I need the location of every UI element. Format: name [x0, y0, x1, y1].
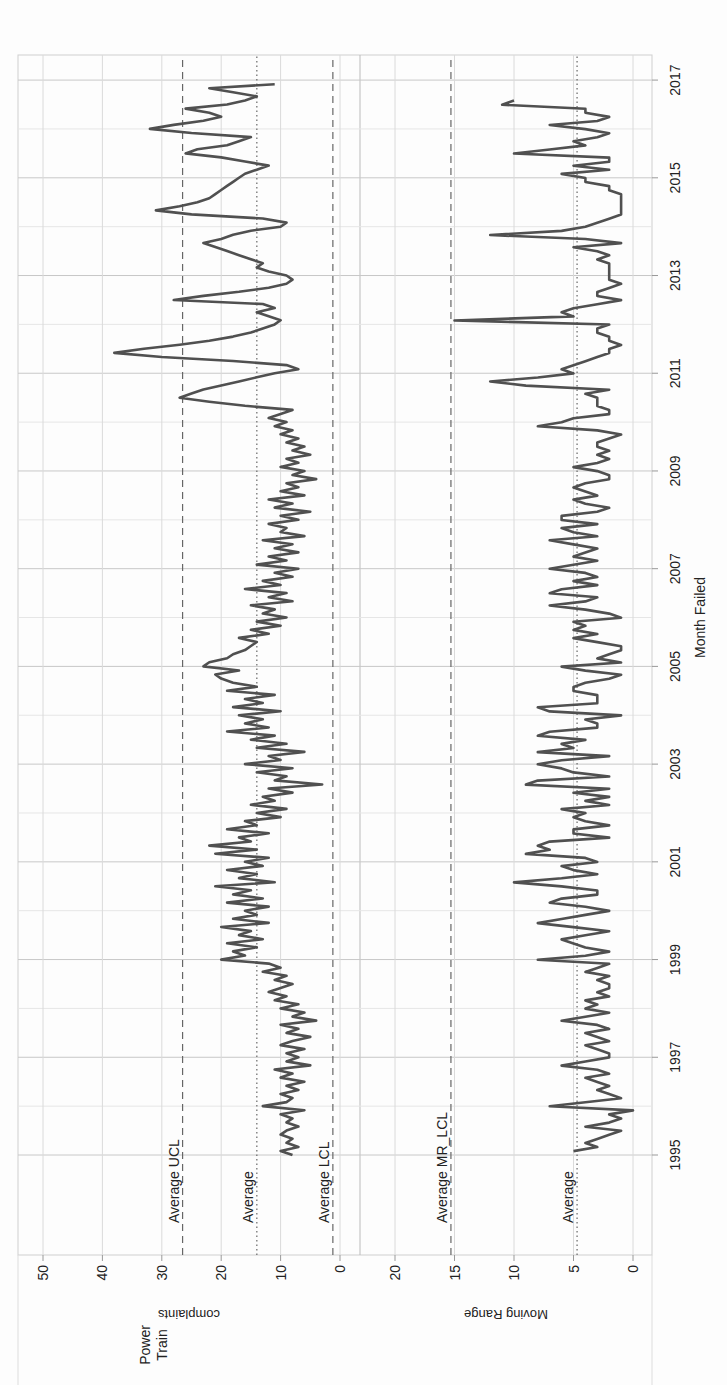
axis-ticks — [43, 80, 658, 1261]
svg-text:Average LCL: Average LCL — [316, 1141, 332, 1223]
svg-text:2003: 2003 — [667, 748, 683, 779]
svg-text:40: 40 — [94, 1265, 110, 1281]
svg-text:2015: 2015 — [667, 162, 683, 193]
svg-text:15: 15 — [447, 1265, 463, 1281]
control-chart: 1995199719992001200320052007200920112013… — [0, 0, 727, 1385]
svg-text:2007: 2007 — [667, 553, 683, 584]
grid-lines — [18, 55, 652, 1385]
svg-text:Average: Average — [560, 1171, 576, 1223]
svg-text:1995: 1995 — [667, 1139, 683, 1170]
svg-text:0: 0 — [625, 1265, 641, 1273]
svg-text:2017: 2017 — [667, 64, 683, 95]
svg-text:30: 30 — [154, 1265, 170, 1281]
svg-text:5: 5 — [566, 1265, 582, 1273]
svg-text:Train: Train — [154, 1329, 170, 1360]
svg-text:20: 20 — [387, 1265, 403, 1281]
svg-text:Moving Range: Moving Range — [464, 1307, 548, 1322]
svg-text:2011: 2011 — [667, 358, 683, 388]
svg-text:2009: 2009 — [667, 455, 683, 486]
svg-text:Average MR_LCL: Average MR_LCL — [434, 1112, 450, 1223]
svg-text:1999: 1999 — [667, 944, 683, 975]
data-series — [114, 84, 633, 1155]
svg-text:0: 0 — [332, 1265, 348, 1273]
svg-text:1997: 1997 — [667, 1041, 683, 1072]
svg-text:50: 50 — [35, 1265, 51, 1281]
svg-text:Average UCL: Average UCL — [166, 1139, 182, 1223]
svg-text:10: 10 — [273, 1265, 289, 1281]
svg-text:2013: 2013 — [667, 260, 683, 291]
svg-text:20: 20 — [213, 1265, 229, 1281]
svg-text:complaints: complaints — [157, 1307, 220, 1322]
chart-canvas: 1995199719992001200320052007200920112013… — [0, 0, 727, 1385]
svg-text:10: 10 — [506, 1265, 522, 1281]
svg-text:Average: Average — [240, 1171, 256, 1223]
svg-text:2005: 2005 — [667, 651, 683, 682]
svg-text:Month Failed: Month Failed — [692, 577, 708, 658]
svg-text:Power: Power — [137, 1325, 153, 1365]
svg-text:2001: 2001 — [667, 846, 683, 877]
